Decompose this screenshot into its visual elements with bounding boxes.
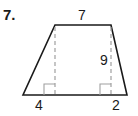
top-base-label: 7: [78, 7, 86, 23]
left-right-angle-mark: [44, 84, 55, 95]
problem-number: 7.: [3, 6, 16, 23]
trapezoid-diagram: 7. 7 9 4 2: [0, 0, 138, 116]
bottom-right-segment-label: 2: [112, 97, 120, 113]
height-label: 9: [100, 52, 108, 68]
bottom-left-segment-label: 4: [35, 97, 43, 113]
right-right-angle-mark: [100, 84, 111, 95]
